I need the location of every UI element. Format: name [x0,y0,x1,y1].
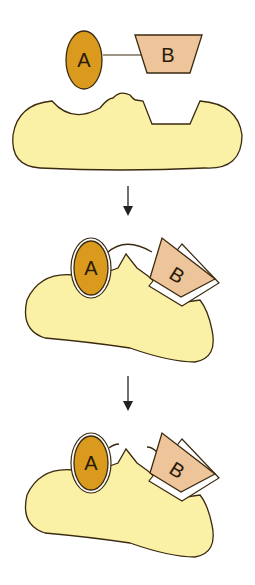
stage-2: A B [25,238,219,362]
cleaved-link-a [109,444,119,448]
arrow-down-icon [123,376,133,411]
cleaved-link-b [147,447,157,452]
substrate-a-label: A [84,257,98,279]
stage-1: A B [13,31,242,170]
substrate-a-label: A [77,49,91,71]
stage-3: A B [25,433,219,557]
substrate-a-label: A [84,452,98,474]
diagram-canvas: A B A B A B [0,0,255,585]
a-b-link [107,244,152,253]
substrate-b-label: B [161,44,174,66]
enzyme [13,93,242,170]
arrow-down-icon [123,186,133,216]
